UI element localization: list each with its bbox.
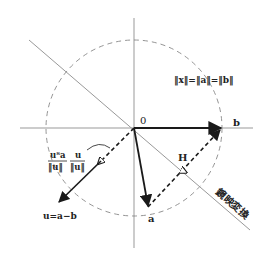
vector-b-label: b (233, 117, 240, 128)
vector-u-label: u=a−b (43, 211, 77, 221)
fraction-numerator-2: u (75, 150, 81, 160)
operator-h-label: H (178, 152, 187, 163)
householder-diagram: 0 b a H u=a−b ‖x‖=‖a‖=‖b‖ uᵀa ‖u‖ u ‖u‖ … (0, 0, 267, 268)
label-pointer-curve (87, 144, 110, 150)
fraction-denominator-1: ‖u‖ (48, 162, 63, 173)
projection-fraction: uᵀa ‖u‖ u ‖u‖ (48, 150, 85, 173)
h-midpoint-open-arrow-icon (183, 171, 184, 172)
projection-dashed (101, 128, 134, 161)
vector-a-arrow (134, 128, 148, 206)
norm-equation-label: ‖x‖=‖a‖=‖b‖ (174, 75, 234, 86)
vector-a-label: a (148, 213, 155, 224)
mirror-line (29, 40, 250, 230)
origin-label: 0 (140, 115, 146, 126)
fraction-denominator-2: ‖u‖ (70, 162, 85, 173)
fraction-numerator-1: uᵀa (50, 150, 66, 160)
